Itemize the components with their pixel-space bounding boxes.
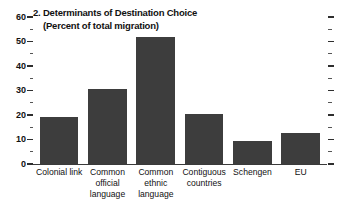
bar-slot — [180, 17, 228, 164]
y-axis-tick — [27, 139, 33, 140]
bar[interactable] — [281, 133, 320, 164]
y-axis-tick-label: 20 — [4, 111, 26, 120]
bar[interactable] — [185, 114, 224, 164]
y-axis-tick-right — [328, 65, 334, 66]
y-axis-tick — [27, 163, 33, 164]
x-axis-tick-label: Contiguouscountries — [180, 167, 228, 200]
x-axis-tick-label: EU — [277, 167, 325, 200]
x-axis-label-line: language — [84, 189, 130, 200]
y-axis-tick-right — [328, 114, 334, 115]
x-axis-labels: Colonial linkCommonofficiallanguageCommo… — [35, 167, 325, 200]
y-axis-minor-tick-right — [328, 102, 332, 103]
x-axis-baseline — [33, 164, 327, 165]
y-axis-tick-right — [328, 16, 334, 17]
bar-slot — [132, 17, 180, 164]
y-axis-minor-tick-right — [328, 53, 332, 54]
y-axis-minor-tick-right — [328, 127, 332, 128]
y-axis-minor-tick — [30, 78, 34, 79]
y-axis-tick-label: 10 — [4, 135, 26, 144]
y-axis-tick — [27, 90, 33, 91]
bar[interactable] — [233, 141, 272, 164]
x-axis-label-line: Common — [133, 167, 179, 178]
y-axis-tick-right — [328, 90, 334, 91]
y-axis-minor-tick-right — [328, 29, 332, 30]
y-axis-minor-tick-right — [328, 78, 332, 79]
bar[interactable] — [136, 37, 175, 164]
x-axis-label-line: Colonial link — [36, 167, 82, 178]
y-axis-tick-right — [328, 163, 334, 164]
x-axis-tick-label: Colonial link — [35, 167, 83, 200]
y-axis-minor-tick — [30, 102, 34, 103]
y-axis-tick-label: 40 — [4, 62, 26, 71]
bar[interactable] — [88, 89, 127, 164]
y-axis-minor-tick — [30, 151, 34, 152]
y-axis-tick — [27, 65, 33, 66]
bar-slot — [277, 17, 325, 164]
x-axis-label-line: countries — [181, 178, 227, 189]
x-axis-label-line: EU — [278, 167, 324, 178]
x-axis-label-line: Common — [84, 167, 130, 178]
y-axis-tick — [27, 41, 33, 42]
y-axis-tick-right — [328, 41, 334, 42]
y-axis-tick-label: 60 — [4, 13, 26, 22]
plot-area — [35, 17, 325, 164]
x-axis-tick-label: Commonofficiallanguage — [83, 167, 131, 200]
x-axis-label-line: language — [133, 189, 179, 200]
bar-slot — [228, 17, 276, 164]
y-axis-minor-tick — [30, 29, 34, 30]
y-axis-tick-label: 0 — [4, 160, 26, 169]
y-axis-tick-label: 50 — [4, 37, 26, 46]
x-axis-label-line: official — [84, 178, 130, 189]
y-axis-minor-tick — [30, 127, 34, 128]
x-axis-tick-label: Commonethniclanguage — [132, 167, 180, 200]
y-axis-minor-tick — [30, 53, 34, 54]
y-axis-tick — [27, 114, 33, 115]
bar-slot — [35, 17, 83, 164]
y-axis-tick — [27, 16, 33, 17]
bar-series — [35, 17, 325, 164]
bar-chart-figure: 2. Determinants of Destination Choice (P… — [0, 0, 344, 213]
bar[interactable] — [40, 117, 79, 164]
x-axis-tick-label: Schengen — [228, 167, 276, 200]
bar-slot — [83, 17, 131, 164]
x-axis-label-line: Schengen — [229, 167, 275, 178]
y-axis-tick-label: 30 — [4, 86, 26, 95]
x-axis-label-line: Contiguous — [181, 167, 227, 178]
y-axis-tick-right — [328, 139, 334, 140]
y-axis-minor-tick-right — [328, 151, 332, 152]
x-axis-label-line: ethnic — [133, 178, 179, 189]
